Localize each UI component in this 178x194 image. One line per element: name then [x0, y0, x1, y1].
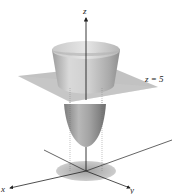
- plane-label: z = 5: [144, 74, 164, 84]
- paraboloid-diagram: z x y z = 5: [0, 0, 178, 194]
- paraboloid-lower: [64, 104, 106, 147]
- y-axis-label: y: [129, 185, 134, 194]
- z-axis-label: z: [82, 6, 87, 16]
- x-axis-label: x: [0, 184, 5, 194]
- x-axis-negative: [86, 140, 172, 171]
